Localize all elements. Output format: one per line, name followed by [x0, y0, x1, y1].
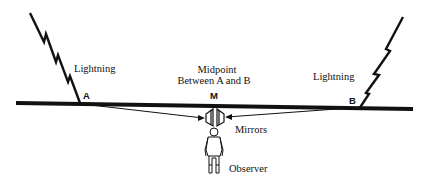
mirrors-icon — [206, 109, 224, 126]
mirrors-label: Mirrors — [235, 124, 267, 135]
lightning-bolt-left — [30, 13, 80, 103]
point-m-label: M — [210, 90, 218, 101]
arrowhead-right — [225, 114, 232, 120]
point-b-label: B — [349, 95, 356, 106]
lightning-right-label: Lightning — [313, 71, 355, 82]
lightning-bolt-right — [359, 17, 403, 109]
observer-icon — [205, 128, 223, 173]
lightning-simultaneity-diagram: Lightning Lightning Midpoint Between A a… — [0, 0, 428, 191]
light-ray-from-b — [227, 108, 350, 117]
point-a-label: A — [83, 90, 90, 101]
lightning-left-label: Lightning — [74, 63, 116, 74]
midpoint-label-line1: Midpoint — [197, 64, 236, 75]
arrowhead-left — [198, 115, 205, 121]
observer-label: Observer — [229, 163, 268, 174]
midpoint-label-line2: Between A and B — [177, 75, 250, 86]
